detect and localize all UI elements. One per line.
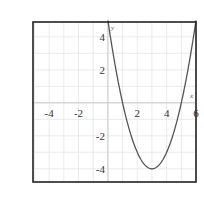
y-axis-label: y <box>110 24 115 32</box>
x-tick-label: 4 <box>164 107 170 119</box>
x-tick-label: -2 <box>74 107 83 119</box>
grid-lines <box>33 22 196 182</box>
y-tick-label: 2 <box>99 64 105 76</box>
x-axis-label: x <box>189 92 194 100</box>
y-tick-label: -4 <box>96 163 106 175</box>
y-tick-label: -2 <box>96 130 105 142</box>
plot-frame <box>33 22 196 182</box>
y-tick-label: 4 <box>99 31 105 43</box>
parabola-chart: -4-224642-2-4 y x <box>0 0 204 199</box>
x-tick-label: 2 <box>135 107 141 119</box>
axes <box>33 22 196 182</box>
x-tick-label: -4 <box>45 107 55 119</box>
